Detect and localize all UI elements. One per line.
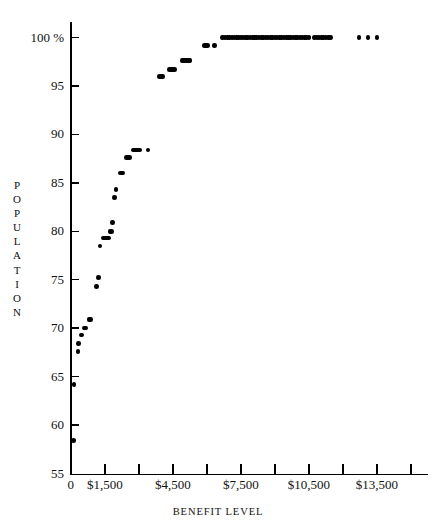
data-point: [94, 284, 99, 289]
data-point: [357, 35, 362, 40]
data-point: [96, 275, 101, 280]
data-point: [172, 67, 177, 72]
data-point: [76, 341, 81, 346]
data-point: [88, 317, 93, 322]
population-benefit-scatter-chart: POPULATION 556065707580859095100 % 0$1,5…: [0, 0, 436, 529]
data-point: [307, 35, 312, 40]
data-point: [160, 74, 165, 79]
data-point: [106, 236, 111, 241]
data-point: [76, 349, 81, 354]
data-point: [137, 148, 142, 153]
data-point: [79, 333, 84, 338]
data-point: [188, 58, 193, 63]
data-point: [328, 35, 333, 40]
data-point: [146, 148, 151, 153]
data-point: [98, 244, 103, 249]
data-point: [114, 187, 119, 192]
x-axis-title: BENEFIT LEVEL: [0, 506, 436, 517]
data-point: [71, 438, 76, 443]
data-point: [366, 35, 371, 40]
data-point: [110, 220, 115, 225]
data-point: [120, 171, 125, 176]
data-point: [72, 382, 77, 387]
data-point: [109, 229, 114, 234]
data-point: [205, 43, 210, 48]
data-point: [112, 195, 117, 200]
data-points-layer: [0, 0, 436, 529]
data-point: [375, 35, 380, 40]
data-point: [127, 155, 132, 160]
data-point: [212, 43, 217, 48]
data-point: [83, 326, 88, 331]
